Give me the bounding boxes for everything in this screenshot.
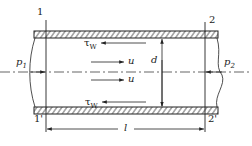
shear-label-top: τW xyxy=(84,38,97,51)
velocity-label-upper: u xyxy=(128,56,134,66)
shear-label-bottom: τW xyxy=(85,97,98,110)
section-label-1-prime: 1' xyxy=(34,114,43,124)
diameter-label: d xyxy=(151,55,157,65)
pressure-label-p1: p1 xyxy=(16,57,27,70)
section-label-2: 2 xyxy=(209,15,215,25)
right-break-line xyxy=(217,38,223,107)
length-label: l xyxy=(124,123,127,133)
left-break-line xyxy=(30,38,35,107)
pressure-label-p2: p2 xyxy=(224,57,235,70)
section-label-1: 1 xyxy=(37,7,43,17)
section-label-2-prime: 2' xyxy=(208,114,217,124)
bottom-pipe-wall xyxy=(34,107,218,114)
velocity-label-lower: u xyxy=(128,74,134,84)
top-pipe-wall xyxy=(34,31,218,38)
